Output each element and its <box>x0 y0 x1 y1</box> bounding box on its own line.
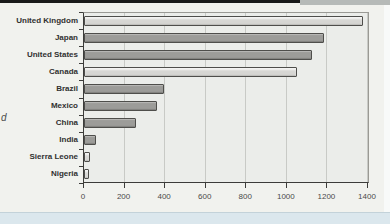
bar-india <box>84 135 96 145</box>
top-dark-strip <box>0 0 300 3</box>
category-label-japan: Japan <box>0 33 78 43</box>
bar-united-kingdom <box>84 16 363 26</box>
page-background-bottom-band <box>0 212 390 224</box>
category-label-brazil: Brazil <box>0 84 78 94</box>
y-tick-mark-9 <box>79 166 83 167</box>
x-tick-mark-800 <box>245 183 246 188</box>
category-label-united-kingdom: United Kingdom <box>0 16 78 26</box>
x-tick-mark-400 <box>164 183 165 188</box>
x-tick-mark-600 <box>205 183 206 188</box>
y-tick-mark-7 <box>79 132 83 133</box>
category-label-canada: Canada <box>0 67 78 77</box>
bar-canada <box>84 67 297 77</box>
top-gray-strip <box>300 0 390 5</box>
x-tick-mark-200 <box>124 183 125 188</box>
y-tick-mark-5 <box>79 98 83 99</box>
gridline-1200 <box>326 13 327 182</box>
y-tick-mark-0 <box>79 12 83 13</box>
x-tick-label-1000: 1000 <box>268 192 304 201</box>
y-tick-mark-2 <box>79 46 83 47</box>
bar-nigeria <box>84 169 89 179</box>
y-tick-mark-8 <box>79 149 83 150</box>
bar-japan <box>84 33 324 43</box>
bar-mexico <box>84 101 157 111</box>
bar-china <box>84 118 136 128</box>
x-tick-label-0: 0 <box>65 192 101 201</box>
category-label-united-states: United States <box>0 50 78 60</box>
category-label-china: China <box>0 118 78 128</box>
x-tick-label-400: 400 <box>146 192 182 201</box>
bar-sierra-leone <box>84 152 90 162</box>
x-tick-label-200: 200 <box>106 192 142 201</box>
x-tick-mark-1000 <box>286 183 287 188</box>
x-tick-mark-1400 <box>367 183 368 188</box>
bar-brazil <box>84 84 164 94</box>
x-tick-mark-1200 <box>326 183 327 188</box>
screenshot-root: d 0200400600800100012001400United Kingdo… <box>0 0 390 224</box>
x-tick-label-800: 800 <box>227 192 263 201</box>
x-tick-label-1400: 1400 <box>349 192 385 201</box>
category-label-nigeria: Nigeria <box>0 169 78 179</box>
gridline-1400 <box>367 13 368 182</box>
y-tick-mark-1 <box>79 29 83 30</box>
y-tick-mark-3 <box>79 63 83 64</box>
category-label-mexico: Mexico <box>0 101 78 111</box>
bar-united-states <box>84 50 312 60</box>
category-label-sierra-leone: Sierra Leone <box>0 152 78 162</box>
x-tick-label-600: 600 <box>187 192 223 201</box>
y-tick-mark-4 <box>79 80 83 81</box>
y-tick-mark-10 <box>79 183 83 184</box>
y-tick-mark-6 <box>79 115 83 116</box>
category-label-india: India <box>0 135 78 145</box>
x-tick-mark-0 <box>83 183 84 188</box>
x-tick-label-1200: 1200 <box>308 192 344 201</box>
